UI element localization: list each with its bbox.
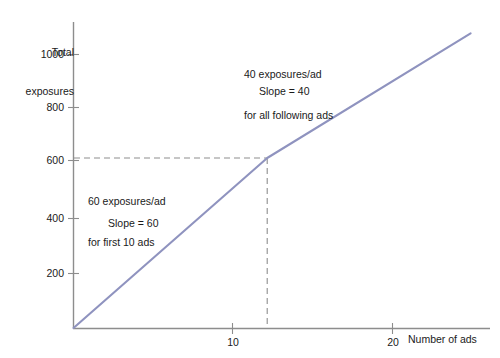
- y-tick-label-400: 400: [20, 212, 64, 224]
- y-tick-label-600: 600: [20, 154, 64, 166]
- x-axis-title: Number of ads: [408, 333, 477, 346]
- y-tick-label-200: 200: [20, 267, 64, 279]
- x-tick-label-10: 10: [218, 336, 248, 348]
- annotation-second-segment-line1: 40 exposures/ad: [244, 68, 333, 82]
- x-tick-label-20: 20: [378, 336, 408, 348]
- y-tick-label-1000: 1000: [20, 48, 64, 60]
- y-axis-title-line2: exposures: [6, 85, 74, 98]
- annotation-first-segment-line2: for first 10 ads: [88, 236, 166, 250]
- chart-figure: Total exposures Number of ads 1000 800 6…: [0, 0, 500, 358]
- y-tick-label-800: 800: [20, 101, 64, 113]
- annotation-slope-60: Slope = 60: [108, 217, 159, 231]
- annotation-slope-40: Slope = 40: [259, 85, 310, 99]
- annotation-second-segment-line2: for all following ads: [244, 109, 333, 123]
- annotation-first-segment-line1: 60 exposures/ad: [88, 195, 166, 209]
